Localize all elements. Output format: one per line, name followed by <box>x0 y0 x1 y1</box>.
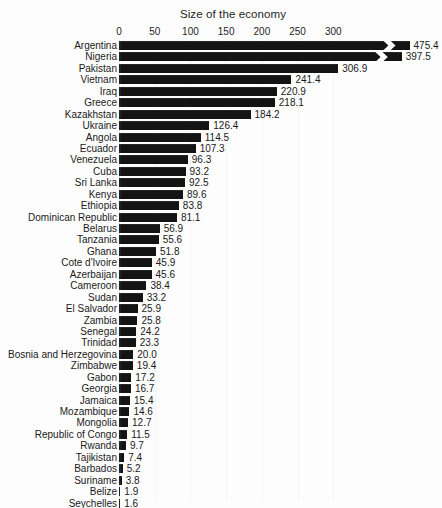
x-axis-tick-100: 100 <box>182 26 199 37</box>
bar-row: Zambia25.8 <box>0 315 442 326</box>
bar-container <box>119 201 179 210</box>
x-axis-tick-labels: 050100150200250300 <box>0 26 442 40</box>
bar <box>119 98 275 107</box>
category-label: Dominican Republic <box>28 212 117 223</box>
bar-container <box>119 281 146 290</box>
bar-value-label: 12.7 <box>132 417 151 428</box>
bar-container <box>119 384 131 393</box>
bar-row: Suriname3.8 <box>0 475 442 486</box>
bar-container <box>119 418 128 427</box>
bar-value-label: 220.9 <box>281 86 306 97</box>
bar-value-label: 397.5 <box>406 51 431 62</box>
bar <box>119 110 251 119</box>
bar-container <box>119 487 120 496</box>
bar-value-label: 23.3 <box>140 337 159 348</box>
category-label: Sri Lanka <box>75 177 117 188</box>
bar-value-label: 9.7 <box>130 440 144 451</box>
bar-container <box>119 373 131 382</box>
bar-container <box>119 235 159 244</box>
bar-row: Georgia16.7 <box>0 383 442 394</box>
bar-chart-figure: Size of the economy 050100150200250300 A… <box>0 0 442 508</box>
bar-container <box>119 167 186 176</box>
bar <box>119 281 146 290</box>
bar-value-label: 306.9 <box>342 63 367 74</box>
category-label: Mozambique <box>60 406 117 417</box>
bar <box>119 270 152 279</box>
bar-row: Sudan33.2 <box>0 292 442 303</box>
bar <box>119 384 131 393</box>
bar-row: Cameroon38.4 <box>0 280 442 291</box>
bar-row: Rwanda9.7 <box>0 440 442 451</box>
bar-container <box>119 98 275 107</box>
bar-container <box>119 121 209 130</box>
bar-container <box>119 361 133 370</box>
category-label: Cuba <box>93 166 117 177</box>
bar <box>119 52 402 61</box>
bar-value-label: 241.4 <box>295 74 320 85</box>
bar-container <box>119 87 277 96</box>
bar-row: Iraq220.9 <box>0 86 442 97</box>
bar <box>119 293 143 302</box>
bar <box>119 338 136 347</box>
bar-row: Nigeria397.5 <box>0 51 442 62</box>
category-label: Pakistan <box>79 63 117 74</box>
bar-value-label: 11.5 <box>131 429 150 440</box>
bar-value-label: 1.6 <box>124 498 138 508</box>
category-label: Argentina <box>74 40 117 51</box>
category-label: Gabon <box>87 372 117 383</box>
bar-value-label: 25.8 <box>141 315 160 326</box>
bar-container <box>119 41 410 50</box>
category-label: Iraq <box>100 86 117 97</box>
bar-value-label: 25.9 <box>142 303 161 314</box>
category-label: Ecuador <box>80 143 117 154</box>
bar-value-label: 56.9 <box>164 223 183 234</box>
bar-container <box>119 64 338 73</box>
bar-value-label: 19.4 <box>137 360 156 371</box>
bar <box>119 396 130 405</box>
category-label: Senegal <box>80 326 117 337</box>
category-label: Georgia <box>81 383 117 394</box>
category-label: Tanzania <box>77 234 117 245</box>
bar <box>119 213 177 222</box>
bar-container <box>119 224 160 233</box>
category-label: Greece <box>84 97 117 108</box>
bar-value-label: 15.4 <box>134 395 153 406</box>
bar-value-label: 1.9 <box>124 486 138 497</box>
bar-value-label: 184.2 <box>255 109 280 120</box>
category-label: Republic of Congo <box>35 429 117 440</box>
bar-container <box>119 453 124 462</box>
bar <box>119 144 196 153</box>
bar <box>119 201 179 210</box>
bar-value-label: 45.9 <box>156 257 175 268</box>
category-label: Ethiopia <box>81 200 117 211</box>
bar-container <box>119 190 183 199</box>
category-label: Azerbaijan <box>70 269 117 280</box>
category-label: Kazakhstan <box>65 109 117 120</box>
bar-row: Belarus56.9 <box>0 223 442 234</box>
bar <box>119 178 185 187</box>
chart-plot-area: Argentina475.4Nigeria397.5Pakistan306.9V… <box>0 40 442 508</box>
bar <box>119 350 133 359</box>
bar-value-label: 81.1 <box>181 212 200 223</box>
category-label: Cameroon <box>70 280 117 291</box>
bar-row: Tajikistan7.4 <box>0 452 442 463</box>
bar <box>119 133 201 142</box>
bar <box>119 167 186 176</box>
category-label: Vietnam <box>80 74 117 85</box>
bar <box>119 487 120 496</box>
bar <box>119 499 120 508</box>
bar-value-label: 24.2 <box>140 326 159 337</box>
bar-container <box>119 213 177 222</box>
bar-container <box>119 476 122 485</box>
bar-row: Mozambique14.6 <box>0 406 442 417</box>
bar-row: Belize1.9 <box>0 486 442 497</box>
bar-row: Senegal24.2 <box>0 326 442 337</box>
bar-container <box>119 396 130 405</box>
bar-row: Ecuador107.3 <box>0 143 442 154</box>
x-axis-tick-250: 250 <box>289 26 306 37</box>
x-axis-tick-200: 200 <box>254 26 271 37</box>
bar-value-label: 5.2 <box>127 463 141 474</box>
bar <box>119 361 133 370</box>
category-label: Barbados <box>74 463 117 474</box>
bar-row: Zimbabwe19.4 <box>0 360 442 371</box>
